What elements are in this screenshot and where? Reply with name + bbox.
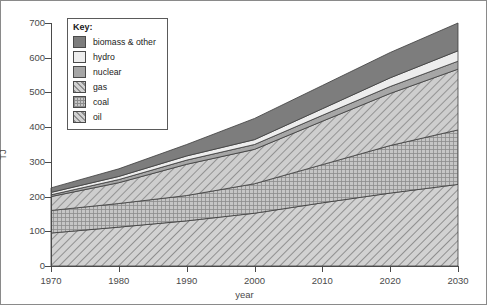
y-tick-mark xyxy=(45,162,51,163)
legend-item-gas: gas xyxy=(73,80,162,95)
x-tick-mark xyxy=(390,266,391,272)
x-tick-label: 2000 xyxy=(235,276,275,286)
x-tick-label: 1990 xyxy=(167,276,207,286)
y-tick-mark xyxy=(45,92,51,93)
x-tick-label: 2030 xyxy=(438,276,478,286)
y-tick-label: 100 xyxy=(5,226,45,236)
legend-item-label: nuclear xyxy=(93,68,122,77)
legend-item-label: biomass & other xyxy=(93,38,156,47)
y-axis-title: TJ xyxy=(0,149,8,160)
legend-title: Key: xyxy=(73,23,162,33)
legend-item-hydro: hydro xyxy=(73,50,162,65)
y-tick-label: 200 xyxy=(5,192,45,202)
legend-swatch-icon xyxy=(73,81,86,93)
y-tick-mark xyxy=(45,58,51,59)
y-tick-mark xyxy=(45,231,51,232)
legend-swatch-icon xyxy=(73,36,86,48)
x-tick-label: 1970 xyxy=(31,276,71,286)
legend-swatch-icon xyxy=(73,96,86,108)
y-tick-mark xyxy=(45,197,51,198)
legend-swatch-icon xyxy=(73,111,86,123)
y-tick-label: 600 xyxy=(5,53,45,63)
x-tick-label: 2010 xyxy=(302,276,342,286)
legend-item-nuclear: nuclear xyxy=(73,65,162,80)
y-tick-label: 500 xyxy=(5,87,45,97)
chart-figure: 0100200300400500600700 19701980199020002… xyxy=(0,0,487,305)
x-axis-title: year xyxy=(1,289,487,300)
x-tick-mark xyxy=(322,266,323,272)
x-tick-label: 1980 xyxy=(99,276,139,286)
y-tick-label: 300 xyxy=(5,157,45,167)
chart-legend: Key: biomass & otherhydronucleargascoalo… xyxy=(67,18,168,130)
legend-item-coal: coal xyxy=(73,95,162,110)
legend-item-label: coal xyxy=(93,98,109,107)
x-tick-mark xyxy=(187,266,188,272)
x-tick-mark xyxy=(255,266,256,272)
legend-item-label: gas xyxy=(93,83,107,92)
legend-swatch-icon xyxy=(73,66,86,78)
legend-item-biomass-other: biomass & other xyxy=(73,35,162,50)
y-axis-line xyxy=(51,23,52,267)
x-tick-mark xyxy=(119,266,120,272)
legend-swatch-icon xyxy=(73,51,86,63)
y-tick-label: 0 xyxy=(5,261,45,271)
x-tick-mark xyxy=(51,266,52,272)
y-tick-label: 700 xyxy=(5,18,45,28)
y-tick-label: 400 xyxy=(5,122,45,132)
legend-item-label: oil xyxy=(93,113,102,122)
y-tick-mark xyxy=(45,23,51,24)
y-tick-mark xyxy=(45,127,51,128)
legend-rows: biomass & otherhydronucleargascoaloil xyxy=(73,35,162,125)
legend-item-oil: oil xyxy=(73,110,162,125)
legend-item-label: hydro xyxy=(93,53,115,62)
x-tick-label: 2020 xyxy=(370,276,410,286)
x-tick-mark xyxy=(458,266,459,272)
